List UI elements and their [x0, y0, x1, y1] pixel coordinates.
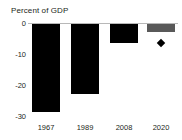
y-tick-label-minus30: -30 [2, 113, 26, 121]
x-axis-labels: 1967 1989 2008 2020 [0, 124, 182, 136]
x-tick-label-2020: 2020 [153, 124, 170, 132]
bar-2008 [110, 24, 138, 43]
y-axis-ticks: 0 -10 -20 -30 [0, 0, 26, 140]
diamond-marker-2020 [157, 38, 165, 46]
plot-area [28, 24, 178, 117]
x-tick-label-2008: 2008 [116, 124, 133, 132]
chart-container: Percent of GDP 0 -10 -20 -30 1967 1989 2… [0, 0, 182, 140]
y-tick-label-0: 0 [2, 20, 26, 28]
y-tick-label-minus20: -20 [2, 82, 26, 90]
bar-2020 [147, 24, 175, 32]
x-tick-label-1989: 1989 [77, 124, 94, 132]
bar-1989 [71, 24, 99, 94]
bar-1967 [32, 24, 60, 112]
y-tick-label-minus10: -10 [2, 51, 26, 59]
x-tick-label-1967: 1967 [38, 124, 55, 132]
